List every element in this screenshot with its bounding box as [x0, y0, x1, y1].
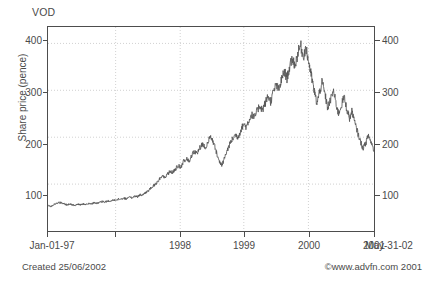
- y-tick-label-400: 400: [12, 35, 42, 46]
- price-line: [48, 41, 374, 207]
- y-tick-mark-right-400: [375, 40, 380, 41]
- x-tick-mark-4: [309, 232, 310, 237]
- x-tick-mark-3: [244, 232, 245, 237]
- plot-area: [47, 26, 375, 232]
- x-tick-label-2: 1999: [214, 240, 274, 251]
- y-tick-mark-right-200: [375, 144, 380, 145]
- x-tick-label-1: 1998: [150, 240, 210, 251]
- x-tick-mark-5: [374, 232, 375, 237]
- y-tick-mark-right-100: [375, 195, 380, 196]
- x-tick-label-3: 2000: [279, 240, 339, 251]
- gridlines: [48, 27, 374, 231]
- x-tick-mark-1: [115, 232, 116, 237]
- y-tick-label-right-200: 200: [382, 139, 416, 150]
- y-tick-label-right-300: 300: [382, 87, 416, 98]
- x-tick-mark-0: [47, 232, 48, 237]
- y-tick-label-right-400: 400: [382, 35, 416, 46]
- x-tick-label-5: May-31-02: [345, 240, 433, 251]
- chart-title: VOD: [32, 6, 55, 18]
- chart-root: VOD Share price (pence) 400 300 200 100 …: [0, 0, 436, 281]
- y-tick-label-300: 300: [12, 87, 42, 98]
- y-tick-label-100: 100: [12, 190, 42, 201]
- x-tick-mark-2: [180, 232, 181, 237]
- copyright-text: ©www.advfn.com 2001: [325, 261, 422, 272]
- y-tick-label-200: 200: [12, 139, 42, 150]
- series-canvas: [48, 27, 374, 231]
- y-tick-label-right-100: 100: [382, 190, 416, 201]
- created-text: Created 25/06/2002: [22, 261, 106, 272]
- y-tick-mark-right-300: [375, 92, 380, 93]
- x-tick-label-0: Jan-01-97: [12, 240, 92, 251]
